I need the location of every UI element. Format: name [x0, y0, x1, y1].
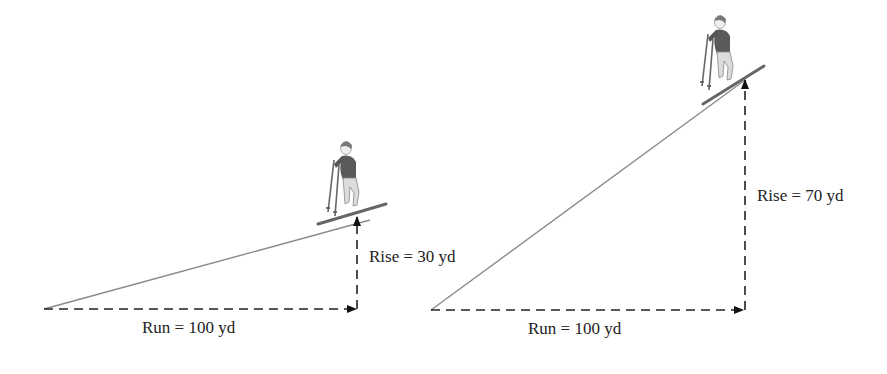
- run-label: Run = 100 yd: [528, 319, 622, 338]
- skier-icon: [326, 142, 359, 217]
- slope-line: [44, 220, 370, 309]
- slope-diagram: Run = 100 yd Rise = 30 yd Run = 100 yd R…: [0, 0, 887, 374]
- skier-icon: [700, 16, 733, 91]
- rise-label: Rise = 70 yd: [757, 186, 844, 205]
- rise-label: Rise = 30 yd: [369, 247, 456, 266]
- run-label: Run = 100 yd: [142, 318, 236, 337]
- steep-slope-diagram: Run = 100 yd Rise = 70 yd: [431, 16, 844, 339]
- gentle-slope-diagram: Run = 100 yd Rise = 30 yd: [44, 142, 456, 338]
- ski-icon: [703, 66, 764, 104]
- slope-line: [431, 80, 745, 310]
